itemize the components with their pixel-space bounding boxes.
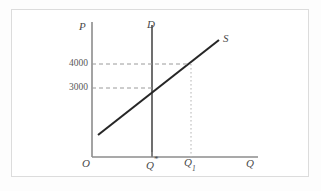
y-axis-label: P bbox=[79, 21, 86, 32]
equilibrium-quantity-label: Q* bbox=[146, 157, 158, 171]
equilibrium-quantity-star: * bbox=[154, 154, 159, 164]
equilibrium-quantity-letter: Q bbox=[146, 159, 154, 171]
y-tick-label-3000: 3000 bbox=[58, 83, 88, 93]
origin-label: O bbox=[82, 158, 90, 169]
quantity-one-label: Q1 bbox=[184, 157, 196, 171]
supply-curve-label: S bbox=[223, 33, 229, 44]
y-tick-label-4000: 4000 bbox=[58, 59, 88, 69]
quantity-one-subscript: 1 bbox=[192, 164, 196, 173]
demand-curve-label: D bbox=[147, 19, 155, 30]
x-axis-label: Q bbox=[246, 158, 254, 169]
quantity-one-letter: Q bbox=[184, 156, 192, 168]
plot-svg bbox=[0, 0, 321, 191]
figure-root: P Q O D S 4000 3000 Q* Q1 bbox=[0, 0, 321, 191]
plot-area: P Q O D S 4000 3000 Q* Q1 bbox=[0, 0, 321, 191]
